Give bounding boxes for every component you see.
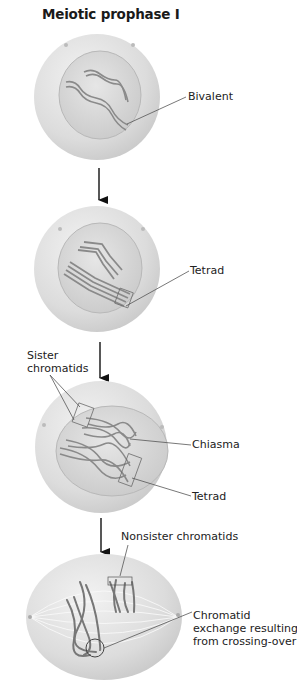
- meiosis-diagram: [0, 0, 297, 686]
- label-sister-line2: chromatids: [27, 362, 89, 375]
- label-exchange-line2: exchange resulting: [193, 622, 297, 635]
- label-bivalent: Bivalent: [188, 90, 233, 103]
- label-exchange-line3: from crossing-over: [193, 635, 296, 648]
- stage-1-cell: [34, 34, 186, 160]
- stage-2-cell: [34, 206, 189, 332]
- label-exchange-line1: Chromatid: [193, 609, 250, 622]
- label-sister-line1: Sister: [27, 349, 58, 362]
- stage-4-cell: [26, 545, 192, 680]
- label-nonsister: Nonsister chromatids: [121, 530, 238, 543]
- label-tetrad-2: Tetrad: [192, 490, 226, 503]
- label-tetrad-1: Tetrad: [190, 264, 224, 277]
- label-chiasma: Chiasma: [192, 438, 240, 451]
- stage-3-cell: [35, 375, 191, 513]
